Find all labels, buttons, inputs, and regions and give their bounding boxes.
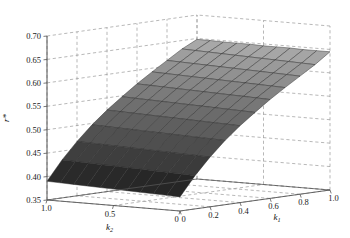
z-tick-7: 0.70	[26, 31, 41, 41]
z-axis-label: r*	[1, 114, 11, 123]
k2-axis-label: k2	[106, 222, 113, 233]
z-tick-3: 0.50	[26, 125, 41, 135]
z-tick-1: 0.40	[26, 172, 41, 182]
k1-tick-4: 0.8	[298, 197, 309, 207]
k1-tick-5: 1.0	[328, 193, 339, 203]
k1-axis-label: k1	[273, 212, 280, 223]
k2-tick-0: 1.0	[41, 203, 52, 213]
z-tick-2: 0.45	[26, 148, 41, 158]
z-tick-4: 0.55	[26, 101, 41, 111]
k1-tick-2: 0.4	[238, 206, 249, 216]
k1-tick-0: 0	[181, 214, 185, 224]
k2-tick-2: 0	[174, 214, 178, 224]
k2-tick-1: 0.5	[105, 209, 116, 219]
plot-canvas: 0.350.400.450.500.550.600.650.7000.20.40…	[0, 0, 350, 238]
z-tick-6: 0.65	[26, 55, 41, 65]
k1-tick-1: 0.2	[208, 210, 219, 220]
z-tick-5: 0.60	[26, 78, 41, 88]
surface-mesh	[47, 39, 330, 197]
k1-tick-3: 0.6	[268, 201, 279, 211]
z-tick-0: 0.35	[26, 195, 41, 205]
surface-plot-figure: 0.350.400.450.500.550.600.650.7000.20.40…	[0, 0, 350, 238]
